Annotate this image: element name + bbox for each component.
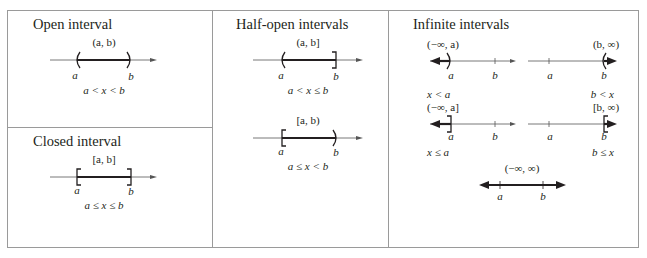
a-label: a	[547, 130, 553, 142]
notation-label: [b, ∞)	[593, 101, 620, 114]
number-line-half-open-2: [a, b) a b a ≤ x < b	[253, 114, 363, 172]
number-line-closed: [a, b] a b a ≤ x ≤ b	[50, 153, 157, 211]
right-arrow-icon	[607, 120, 617, 128]
number-line-infinite-5: (−∞, ∞) a b	[479, 162, 566, 202]
b-label: b	[128, 185, 134, 197]
inequality-label: x < a	[426, 88, 451, 100]
notation-label: [a, b]	[92, 153, 115, 165]
a-label: a	[448, 69, 454, 81]
b-label: b	[601, 130, 607, 142]
notation-label: [a, b)	[296, 114, 320, 127]
left-arrow-icon	[430, 120, 440, 128]
left-arrow-icon	[430, 57, 440, 65]
b-label: b	[492, 69, 498, 81]
notation-label: (a, b)	[92, 36, 116, 49]
inequality-label: a < x ≤ b	[288, 84, 329, 96]
number-line-open: (a, b) a b a < x < b	[50, 36, 157, 96]
a-label: a	[448, 130, 454, 142]
a-label: a	[497, 190, 503, 202]
a-label: a	[547, 69, 553, 81]
b-label: b	[333, 70, 339, 82]
inequality-label: a ≤ x < b	[288, 160, 329, 172]
axis-arrow-icon	[510, 59, 516, 63]
axis-arrow-icon	[510, 122, 516, 126]
inequality-label: b ≤ x	[592, 146, 614, 158]
number-lines-canvas: (a, b) a b a < x < b [a, b] a b a ≤ x ≤ …	[0, 0, 647, 258]
inequality-label: a < x < b	[83, 84, 125, 96]
notation-label: (−∞, ∞)	[505, 162, 540, 175]
a-label: a	[72, 69, 78, 81]
axis-arrow-icon	[356, 136, 363, 140]
right-arrow-icon	[556, 181, 566, 189]
b-label: b	[333, 146, 339, 158]
axis-arrow-icon	[356, 58, 363, 62]
number-line-infinite-3: (−∞, a] a b x ≤ a	[426, 101, 516, 158]
a-label: a	[74, 184, 80, 196]
number-line-infinite-2: (b, ∞) a b b < x	[528, 38, 619, 100]
right-arrow-icon	[607, 57, 617, 65]
left-arrow-icon	[479, 181, 489, 189]
inequality-label: x ≤ a	[426, 146, 449, 158]
number-line-infinite-4: [b, ∞) a b b ≤ x	[528, 101, 619, 158]
a-label: a	[278, 69, 284, 81]
b-label: b	[128, 70, 134, 82]
a-label: a	[278, 145, 284, 157]
axis-arrow-icon	[150, 58, 157, 62]
b-label: b	[601, 69, 607, 81]
notation-label: (a, b]	[296, 36, 319, 49]
inequality-label: a ≤ x ≤ b	[85, 199, 124, 211]
number-line-infinite-1: (−∞, a) a b x < a	[426, 38, 516, 100]
b-label: b	[492, 130, 498, 142]
notation-label: (−∞, a)	[427, 38, 459, 51]
notation-label: (−∞, a]	[427, 101, 459, 114]
inequality-label: b < x	[591, 88, 614, 100]
number-line-half-open-1: (a, b] a b a < x ≤ b	[253, 36, 363, 96]
axis-arrow-icon	[150, 175, 157, 179]
notation-label: (b, ∞)	[593, 38, 620, 51]
b-label: b	[540, 190, 546, 202]
